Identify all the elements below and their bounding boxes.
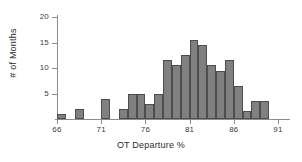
histogram-bar	[172, 65, 181, 119]
histogram-bar	[181, 55, 190, 119]
x-tick	[101, 120, 102, 124]
histogram-bar	[119, 109, 128, 119]
y-axis-title: # of Months	[8, 18, 18, 88]
x-tick	[145, 120, 146, 124]
histogram-bar	[251, 101, 260, 119]
histogram-bar	[190, 40, 199, 119]
histogram-bar	[207, 65, 216, 119]
histogram-bar	[101, 99, 110, 119]
plot-area	[57, 17, 278, 119]
histogram-bar	[243, 111, 252, 119]
histogram-bar	[154, 94, 163, 120]
y-tick-label: 15	[31, 38, 49, 47]
histogram-bar	[260, 101, 269, 119]
x-tick	[190, 120, 191, 124]
x-tick-label: 86	[222, 125, 246, 134]
y-tick-label: 20	[31, 12, 49, 21]
x-tick-label: 91	[266, 125, 290, 134]
histogram-bar	[216, 71, 225, 119]
x-tick-label: 66	[45, 125, 69, 134]
histogram-bar	[225, 60, 234, 119]
x-axis-title: OT Departure %	[0, 140, 302, 150]
x-axis-line	[55, 119, 290, 120]
x-tick	[278, 120, 279, 124]
histogram-chart: 5101520 667176818691 OT Departure % # of…	[0, 0, 302, 162]
y-tick-label: 5	[31, 89, 49, 98]
histogram-bar	[137, 94, 146, 120]
histogram-bar	[198, 45, 207, 119]
histogram-bar	[163, 60, 172, 119]
histogram-bar	[128, 94, 137, 120]
histogram-bar	[57, 114, 66, 119]
histogram-bar	[75, 109, 84, 119]
histogram-bar	[145, 104, 154, 119]
x-tick-label: 71	[89, 125, 113, 134]
x-tick-label: 81	[178, 125, 202, 134]
y-tick-label: 10	[31, 63, 49, 72]
histogram-bar	[234, 86, 243, 119]
x-tick	[57, 120, 58, 124]
x-tick-label: 76	[133, 125, 157, 134]
x-tick	[234, 120, 235, 124]
